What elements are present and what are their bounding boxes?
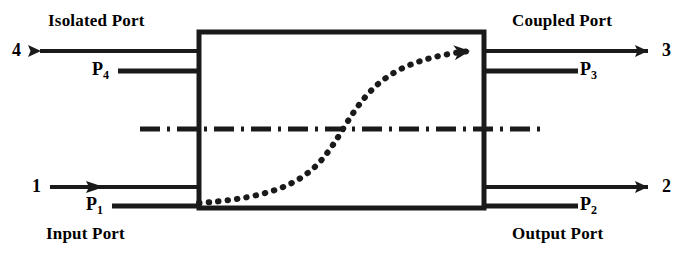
- coupler-body-rect: [199, 32, 484, 208]
- diagram-canvas: [0, 0, 686, 257]
- port-1-power-label: P1: [86, 195, 103, 216]
- output-port-label: Output Port: [512, 225, 603, 242]
- port-number-4: 4: [12, 41, 21, 59]
- port-2-power-label: P2: [580, 195, 597, 216]
- port-3-power-label: P3: [580, 60, 597, 81]
- port-number-2: 2: [662, 177, 671, 195]
- input-port-label: Input Port: [46, 225, 125, 242]
- port-3-power-subscript: 3: [591, 68, 597, 82]
- port-4-power-label: P4: [92, 60, 109, 81]
- port-2-power-symbol: P: [580, 194, 591, 214]
- port-4-power-subscript: 4: [103, 68, 109, 82]
- port-number-3: 3: [662, 41, 671, 59]
- coupled-port-label: Coupled Port: [512, 12, 612, 29]
- isolated-port-label: Isolated Port: [48, 12, 145, 29]
- port-1-power-subscript: 1: [97, 203, 103, 217]
- port-2-power-subscript: 2: [591, 203, 597, 217]
- port-number-1: 1: [32, 177, 41, 195]
- port-3-power-symbol: P: [580, 59, 591, 79]
- port-4-power-symbol: P: [92, 59, 103, 79]
- coupler-diagram: Isolated Port 4 P4 Coupled Port 3 P3 1 P…: [0, 0, 686, 257]
- port-1-power-symbol: P: [86, 194, 97, 214]
